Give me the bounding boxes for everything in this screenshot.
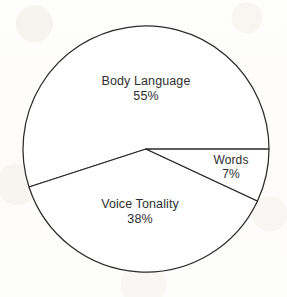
pie-chart-page: Body Language 55% Voice Tonality 38% Wor… [0, 0, 287, 297]
slice-label-words: Words 7% [214, 153, 249, 181]
pie-chart-svg [0, 0, 287, 297]
pie-slices-group [23, 26, 269, 272]
slice-label-body-language-value: 55% [102, 89, 191, 104]
slice-label-voice-tonality-name: Voice Tonality [101, 197, 179, 212]
slice-label-body-language: Body Language 55% [102, 74, 191, 104]
slice-label-words-value: 7% [214, 167, 249, 181]
slice-label-voice-tonality: Voice Tonality 38% [101, 197, 179, 227]
slice-label-words-name: Words [214, 153, 249, 167]
slice-label-body-language-name: Body Language [102, 74, 191, 89]
slice-label-voice-tonality-value: 38% [101, 212, 179, 227]
